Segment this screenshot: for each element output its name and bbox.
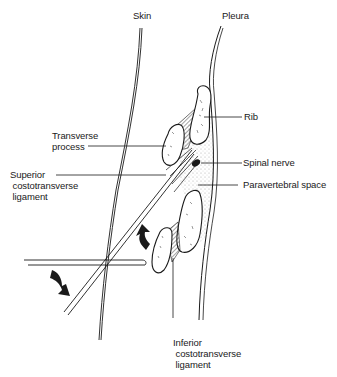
label-spinal-nerve: Spinal nerve bbox=[243, 157, 295, 168]
transverse-process-lower bbox=[152, 228, 172, 273]
needle-redirect-down-arrow bbox=[50, 270, 70, 296]
label-transverse-process: Transverse process bbox=[52, 130, 98, 152]
needle-redirect-up-arrow bbox=[136, 224, 150, 250]
rib-lower bbox=[177, 190, 203, 252]
label-pleura: Pleura bbox=[222, 10, 249, 21]
label-inferior-costotransverse-ligament: Inferior costotransverse ligament bbox=[173, 337, 241, 370]
label-rib: Rib bbox=[244, 111, 258, 122]
label-paravertebral-space: Paravertebral space bbox=[243, 179, 326, 190]
rib-upper bbox=[190, 86, 211, 144]
label-superior-costotransverse-ligament: Superior costotransverse ligament bbox=[10, 169, 78, 202]
needle-horizontal bbox=[24, 260, 146, 265]
label-skin: Skin bbox=[133, 10, 151, 21]
